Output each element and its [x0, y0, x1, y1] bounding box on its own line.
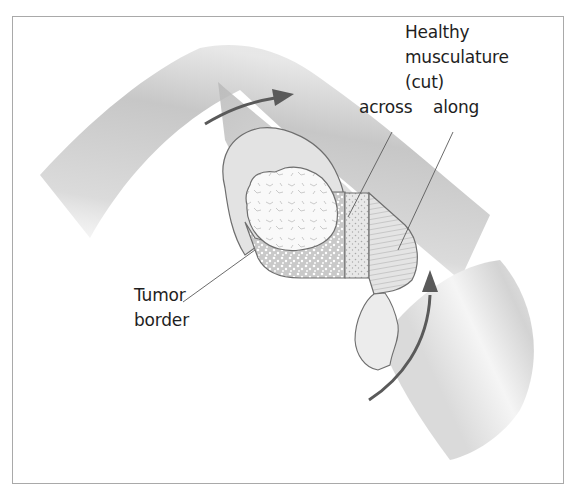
tumor-core [246, 167, 337, 250]
across-section [345, 193, 369, 278]
tumor-leader-line [183, 250, 255, 302]
tumor-label-line2: border [134, 308, 189, 333]
healthy-label-line1: Healthy [405, 20, 509, 45]
healthy-label-line3: (cut) [405, 70, 509, 95]
tumor-border-label: Tumor border [134, 283, 189, 333]
healthy-musculature-label: Healthy musculature (cut) [405, 20, 509, 95]
along-label: along [433, 95, 479, 120]
lower-arrow-head-icon [422, 270, 438, 292]
healthy-label-line2: musculature [405, 45, 509, 70]
across-label: across [359, 95, 412, 120]
lower-tissue-lobe [355, 293, 398, 370]
tumor-label-line1: Tumor [134, 283, 189, 308]
lower-bowel-segment [380, 260, 534, 460]
